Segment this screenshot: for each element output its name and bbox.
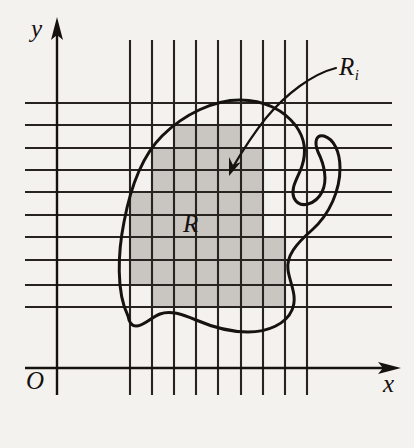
region-partition-figure: y x O R Ri	[0, 0, 414, 448]
shaded-cell	[152, 170, 263, 192]
shaded-cell	[174, 125, 241, 148]
subregion-label-base: R	[339, 53, 354, 80]
subregion-label: Ri	[339, 54, 359, 83]
shaded-cell	[130, 260, 285, 285]
subregion-label-index: i	[354, 67, 359, 83]
y-axis-label: y	[31, 16, 42, 41]
shaded-cell	[130, 237, 285, 260]
x-axis-label: x	[383, 371, 394, 396]
shaded-cell	[152, 148, 263, 170]
region-label: R	[183, 211, 198, 236]
origin-label: O	[26, 368, 44, 393]
